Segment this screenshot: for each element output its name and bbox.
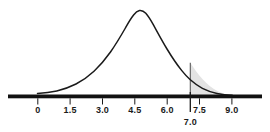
normal-distribution-figure: 0 1.5 3.0 4.5 6.0 7.5 9.0 7.0 bbox=[0, 0, 270, 132]
x-tick-label-5: 7.5 bbox=[193, 105, 206, 115]
x-tick-label-0: 0 bbox=[35, 105, 40, 115]
critical-value-label: 7.0 bbox=[184, 117, 197, 127]
right-tail-shaded-area bbox=[190, 63, 232, 96]
x-axis-line bbox=[8, 95, 262, 99]
x-tick-label-1: 1.5 bbox=[64, 105, 77, 115]
x-tick-label-3: 4.5 bbox=[128, 105, 141, 115]
x-tick-label-4: 6.0 bbox=[161, 105, 174, 115]
x-tick-label-2: 3.0 bbox=[96, 105, 109, 115]
x-tick-label-6: 9.0 bbox=[225, 105, 238, 115]
axis-tick-marks bbox=[38, 98, 232, 104]
